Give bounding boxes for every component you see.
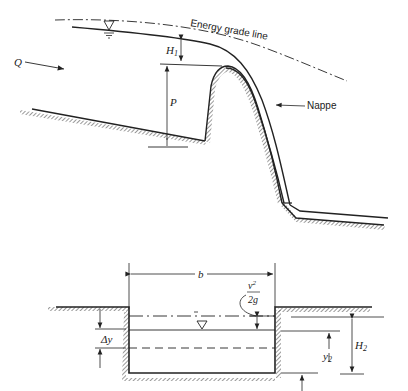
delta-y-label: Δy [100,333,112,345]
weir-diagram: Energy grade line Q H1 P [14,17,388,230]
energy-grade-line-label: Energy grade line [190,17,270,42]
water-surface-triangle-icon [197,321,207,329]
upstream-bed [20,110,206,145]
width-label: b [198,268,204,280]
weir-body [205,66,282,204]
head-label: H1 [165,44,178,58]
flow-label: Q [14,56,22,68]
channel-section-diagram: b v2 2g Δy [48,263,384,391]
depth-label: y2 [322,350,332,364]
velocity-head-label: v2 [248,279,256,291]
weir-height-label: P [169,96,177,108]
svg-text:2g: 2g [248,294,258,305]
nappe-label: Nappe [307,100,337,111]
flow-arrow [25,62,64,69]
nappe-pointer [276,105,305,106]
